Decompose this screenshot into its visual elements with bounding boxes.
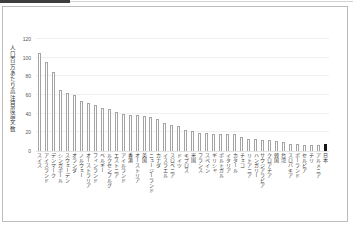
bar-slot [224,134,231,151]
x-category-label: フランス [196,153,203,221]
bar [303,145,306,151]
bar [163,123,166,152]
x-category-label-text: スイス [37,153,42,221]
bar-slot [217,134,224,152]
x-category-label-text: アイスランド [44,153,49,221]
bar [136,115,139,151]
x-category-label-text: ポーランド [295,153,300,221]
x-category-label: アルメニア [315,153,322,221]
x-category-label-text: サウジアラビア [260,153,265,221]
bar-slot [203,133,210,151]
bar-slot [273,141,280,152]
bar [45,62,48,151]
y-tick-label: 0 [28,149,31,154]
bar-slot [322,144,329,152]
bar [38,53,41,151]
x-category-label: ベルギー [99,153,106,221]
x-category-label: イスラエル [161,153,168,221]
bar-slot [85,103,92,151]
x-category-label-text: スロベニア [169,153,174,221]
bar [261,140,264,151]
x-category-label: イタリア [224,153,231,221]
x-category-label: スウェーデン [64,153,71,221]
bar [240,137,243,151]
page: 人口百万あたり高注目度論文数 020406080100120 スイスアイスランド… [0,0,353,232]
x-category-label-text: 台湾 [281,153,286,221]
x-category-label-text: ニュージーランド [148,153,153,221]
x-category-label: リトアニア [245,153,252,221]
y-axis-tick-labels: 020406080100120 [3,39,33,151]
y-tick-label: 80 [25,74,31,79]
x-category-label-text: オーストラリア [86,153,91,221]
bar [212,134,215,152]
bar-slot [168,125,175,151]
bar [219,134,222,152]
bar [289,144,292,151]
bar [59,90,62,151]
bar [275,141,278,152]
bar-slot [210,134,217,152]
x-axis-baseline [36,151,329,152]
x-category-label: スペイン [203,153,210,221]
bar-slot [266,140,273,151]
x-category-label-text: カナダ [155,153,160,221]
bar [122,114,125,151]
x-category-label: キプロス [182,153,189,221]
x-category-label-text: 日本 [323,153,328,221]
x-category-label: フィンランド [92,153,99,221]
bar [143,116,146,151]
x-category-label: オランダ [71,153,78,221]
x-category-label: 香港 [127,153,134,221]
x-category-label: クロアチア [266,153,273,221]
x-category-label: ニュージーランド [148,153,155,221]
x-category-label: サウジアラビア [259,153,266,221]
bar-slot [64,93,71,151]
x-category-label: ルクセンブルグ [106,153,113,221]
x-category-label: ノルウェー [78,153,85,221]
x-category-label-text: イスラエル [162,153,167,221]
x-category-label-text: チリ [309,153,314,221]
bar-slot [245,139,252,151]
bar [226,134,229,151]
x-category-label-text: ルクセンブルグ [107,153,112,221]
x-category-label: スロベニア [168,153,175,221]
x-category-label-text: クロアチア [267,153,272,221]
bar-slot [315,145,322,151]
bar [247,139,250,151]
x-category-label: ギリシャ [210,153,217,221]
bar-slot [294,144,301,151]
bar-slot [78,101,85,151]
top-divider-accent [0,0,70,3]
bar-slot [280,142,287,151]
bar [52,72,55,151]
bar [66,93,69,151]
x-category-label: 英国 [141,153,148,221]
bar-slot [259,140,266,151]
x-category-label-text: オーストリア [135,153,140,221]
bar [129,115,132,151]
x-category-label-text: セルビア [302,153,307,221]
y-tick-label: 20 [25,130,31,135]
x-category-label: ポルトガル [217,153,224,221]
bar-slot [238,137,245,151]
bar [101,108,104,151]
x-category-label-text: デンマーク [51,153,56,221]
x-category-label: 韓国 [273,153,280,221]
x-category-label-text: ポルトガル [218,153,223,221]
bar-slot [161,123,168,152]
y-tick-label: 100 [23,55,31,60]
bar-slot [106,109,113,151]
bar [115,112,118,151]
x-category-label-text: スウェーデン [65,153,70,221]
x-category-label-text: アルメニア [316,153,321,221]
bar-slot [154,119,161,151]
x-category-label-text: 英国 [142,153,147,221]
x-category-label: シンガポール [57,153,64,221]
bar-slot [43,62,50,151]
x-axis-category-labels: スイスアイスランドデンマークシンガポールスウェーデンオランダノルウェーオーストラ… [36,153,329,221]
bar [205,133,208,151]
bar-slot [175,126,182,151]
bar-series [36,39,329,151]
bar [317,145,320,151]
bar-slot [231,134,238,151]
